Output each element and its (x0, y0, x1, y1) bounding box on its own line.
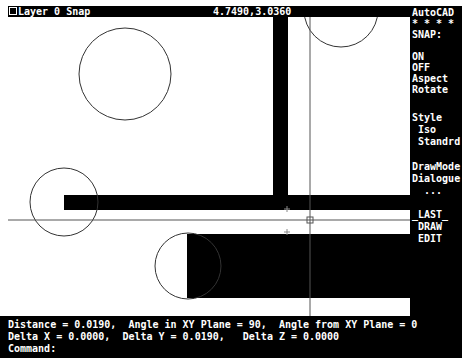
menu-title[interactable]: AutoCAD (412, 7, 454, 18)
menu-item-off[interactable]: OFF (412, 62, 430, 73)
command-area[interactable]: Distance = 0.0190, Angle in XY Plane = 9… (0, 316, 462, 358)
drawing-area[interactable] (8, 17, 410, 316)
layer-color-icon[interactable] (9, 7, 17, 15)
menu-item-aspect[interactable]: Aspect (412, 73, 448, 84)
menu-item-last[interactable]: _LAST_ (412, 209, 448, 220)
circle-top-left (79, 28, 171, 120)
status-bar: Layer 0 Snap 4.7490,3.0360 (8, 6, 410, 17)
menu-item-iso[interactable]: Iso (412, 124, 436, 135)
layer-label: Layer 0 Snap (18, 6, 90, 17)
menu-item-more[interactable]: ... (412, 185, 442, 196)
menu-item-style[interactable]: Style (412, 112, 442, 123)
autocad-window: Layer 0 Snap 4.7490,3.0360 (0, 0, 462, 358)
coordinate-display[interactable]: 4.7490,3.0360 (213, 6, 291, 17)
menu-header: SNAP: (412, 29, 442, 40)
vertical-wall (273, 17, 288, 195)
command-output-distance: Distance = 0.0190, Angle in XY Plane = 9… (8, 319, 417, 330)
circle-top-right (304, 17, 378, 47)
command-prompt[interactable]: Command: (8, 343, 56, 354)
horizontal-wall (64, 195, 410, 210)
menu-stars[interactable]: * * * * (412, 18, 454, 29)
menu-item-rotate[interactable]: Rotate (412, 84, 448, 95)
command-output-delta: Delta X = 0.0000, Delta Y = 0.0190, Delt… (8, 331, 339, 342)
menu-item-standrd[interactable]: Standrd (412, 136, 460, 147)
drawing-canvas (8, 17, 410, 316)
menu-item-drawmode[interactable]: DrawMode (412, 161, 460, 172)
menu-item-edit[interactable]: EDIT (412, 233, 442, 244)
bottom-block (187, 234, 410, 298)
screen-menu: AutoCAD * * * * SNAP: ON OFF Aspect Rota… (410, 6, 462, 316)
menu-item-dialogue[interactable]: Dialogue (412, 173, 460, 184)
menu-item-on[interactable]: ON (412, 51, 424, 62)
menu-item-draw[interactable]: DRAW (412, 221, 442, 232)
